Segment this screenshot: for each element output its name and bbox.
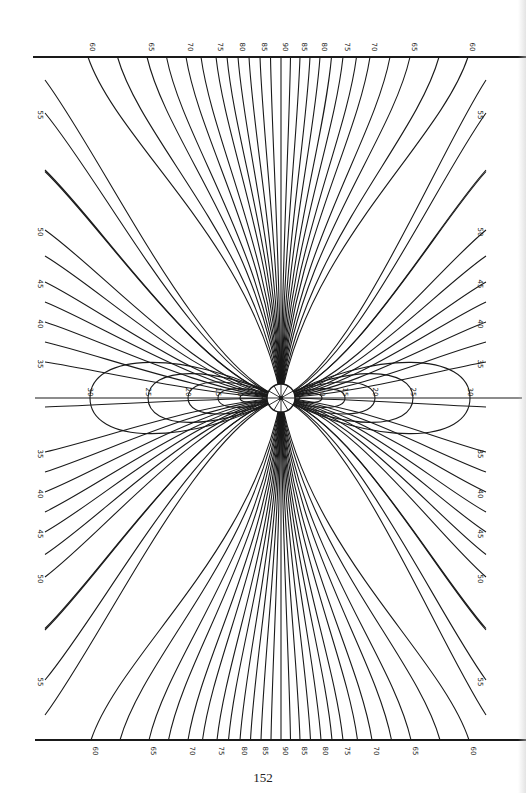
top-contour-label: 75: [343, 43, 351, 52]
right-contour-label: 40: [476, 490, 484, 499]
bottom-contour-label: 60: [91, 747, 99, 756]
field-line: [45, 80, 281, 398]
diagram-lines: [33, 57, 526, 740]
top-contour-label: 65: [147, 43, 155, 52]
left-contour-label: 45: [36, 530, 44, 539]
top-contour-label: 80: [320, 43, 328, 52]
right-contour-label: 35: [476, 360, 484, 369]
field-line: [281, 113, 486, 398]
field-line: [281, 282, 486, 398]
field-line: [88, 57, 281, 398]
left-contour-label: 40: [36, 490, 44, 499]
left-contour-label: 35: [36, 360, 44, 369]
field-line: [91, 398, 281, 740]
right-contour-label: 35: [476, 450, 484, 459]
left-contour-label: 45: [36, 280, 44, 289]
ellipse-label-right: 10: [318, 388, 326, 397]
page-number: 152: [0, 770, 526, 786]
left-contour-label: 40: [36, 320, 44, 329]
top-contour-label: 90: [281, 43, 289, 52]
left-contour-label: 35: [36, 450, 44, 459]
right-contour-label: 40: [476, 320, 484, 329]
right-contour-label: 45: [476, 530, 484, 539]
field-diagram: 6065707580859085807570656060657075808590…: [0, 0, 526, 793]
ellipse-label-right: 15: [341, 388, 349, 397]
top-contour-label: 65: [410, 43, 418, 52]
ellipse-label-left: 10: [236, 388, 244, 397]
top-contour-label: 75: [216, 43, 224, 52]
bottom-contour-label: 85: [261, 747, 269, 756]
bottom-contour-label: 65: [411, 747, 419, 756]
field-line: [281, 57, 439, 398]
field-line: [45, 282, 281, 398]
left-contour-label: 55: [36, 111, 44, 120]
top-contour-label: 80: [238, 43, 246, 52]
bottom-contour-label: 70: [372, 747, 380, 756]
ellipse-label-left: 5: [258, 390, 266, 394]
field-line: [149, 398, 281, 740]
field-line: [281, 398, 440, 740]
bottom-contour-label: 85: [300, 747, 308, 756]
ellipse-label-right: 30: [466, 388, 474, 397]
ellipse-label-left: 20: [184, 388, 192, 397]
bottom-contour-label: 70: [188, 747, 196, 756]
bottom-contour-label: 75: [343, 747, 351, 756]
ellipse-label-right: 5: [296, 390, 304, 394]
top-contour-label: 70: [186, 43, 194, 52]
left-contour-label: 55: [36, 678, 44, 687]
top-contour-label: 60: [88, 43, 96, 52]
bottom-contour-label: 80: [321, 747, 329, 756]
bottom-contour-label: 65: [149, 747, 157, 756]
field-line: [45, 398, 281, 715]
center-dot: [279, 396, 283, 400]
bottom-contour-label: 60: [469, 747, 477, 756]
ellipse-label-right: 20: [371, 388, 379, 397]
page-edge-shadow: [518, 0, 526, 793]
right-contour-label: 50: [476, 228, 484, 237]
right-contour-label: 50: [476, 575, 484, 584]
bottom-contour-label: 90: [281, 747, 289, 756]
ellipse-label-left: 25: [144, 388, 152, 397]
top-contour-label: 70: [370, 43, 378, 52]
ellipse-label-left: 15: [214, 388, 222, 397]
diagram-labels: 6065707580859085807570656060657075808590…: [36, 43, 484, 756]
ellipse-label-left: 30: [86, 388, 94, 397]
top-contour-label: 85: [300, 43, 308, 52]
bottom-contour-label: 75: [217, 747, 225, 756]
top-contour-label: 60: [468, 43, 476, 52]
left-contour-label: 50: [36, 228, 44, 237]
top-contour-label: 85: [260, 43, 268, 52]
field-line: [45, 398, 281, 492]
right-contour-label: 55: [476, 678, 484, 687]
left-contour-label: 50: [36, 575, 44, 584]
ellipse-label-right: 25: [409, 388, 417, 397]
bottom-contour-label: 80: [240, 747, 248, 756]
right-contour-label: 55: [476, 111, 484, 120]
right-contour-label: 45: [476, 280, 484, 289]
field-line: [45, 398, 281, 577]
field-line: [281, 398, 486, 680]
